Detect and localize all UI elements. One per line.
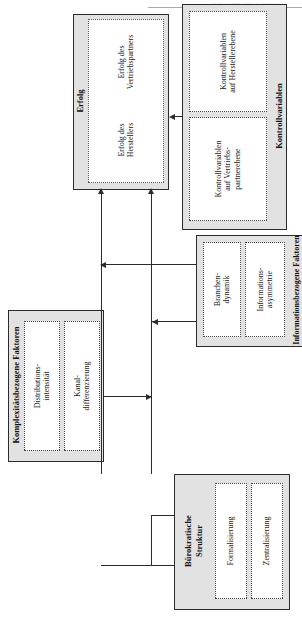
sub-distributionsintensitaet-label: Distributions- intensität: [33, 364, 52, 408]
sub-erfolg-vertriebspartner-label: Erfolg des Vertriebspartners: [117, 35, 136, 90]
group-kontrollvariablen-title: Kontrollvariablen: [273, 3, 286, 229]
link-buerokratie-formalisierung: [101, 565, 174, 566]
group-komplexitaetsbezogene-faktoren: Komplexitätsbezogene Faktoren Distributi…: [8, 310, 104, 462]
link-information-asymmetrie-arrowhead: [100, 262, 106, 268]
group-informationsbezogene-faktoren-title: Informationsbezogene Faktoren: [291, 234, 302, 346]
rail-lower: [151, 190, 152, 474]
sub-informationsasymmetrie: Informations- asymmetrie: [245, 242, 285, 337]
group-informationsbezogene-faktoren: Informationsbezogene Faktoren Branchen- …: [196, 235, 302, 347]
rail-upper-arrowhead: [98, 188, 104, 194]
rail-upper: [101, 190, 102, 474]
rail-lower-arrowhead: [148, 188, 154, 194]
link-buerokratie-zentralisierung: [151, 515, 174, 516]
link-komplexitaet-distribution-arrowhead: [146, 394, 152, 400]
link-information-asymmetrie: [102, 264, 196, 265]
sub-informationsasymmetrie-label: Informations- asymmetrie: [256, 268, 275, 312]
diagram-canvas: Erfolg Erfolg des Herstellers Erfolg des…: [0, 0, 302, 622]
sub-erfolg-vertriebspartner: Erfolg des Vertriebspartners: [94, 25, 158, 99]
sub-kontrollvariablen-vertriebspartnerebene-label: Kontrollvariablen auf Vertriebs- partner…: [214, 141, 243, 198]
group-buerokratische-struktur-title: Bürokratische Struktur: [183, 473, 207, 609]
group-erfolg-title: Erfolg: [74, 13, 86, 189]
sub-formalisierung: Formalisierung: [215, 483, 247, 599]
sub-kanaldifferenzierung: Kanal- differenzierung: [64, 321, 100, 451]
link-buerokratie-bridge: [151, 516, 152, 566]
sub-kontrollvariablen-herstellerebene: Kontrollvariablen auf Herstellerebene: [189, 11, 267, 112]
link-komplexitaet-distribution: [104, 396, 152, 397]
link-information-branchendynamik: [152, 321, 196, 322]
group-kontrollvariablen: Kontrollvariablen Kontrollvariablen auf …: [182, 4, 287, 230]
sub-distributionsintensitaet: Distributions- intensität: [24, 321, 60, 451]
sub-zentralisierung: Zentralisierung: [251, 483, 283, 599]
sub-erfolg-hersteller: Erfolg des Herstellers: [94, 105, 158, 175]
sub-branchendynamik: Branchen- dynamik: [203, 242, 241, 337]
sub-kanaldifferenzierung-label: Kanal- differenzierung: [73, 361, 92, 410]
sub-formalisierung-label: Formalisierung: [226, 517, 236, 566]
group-erfolg: Erfolg Erfolg des Herstellers Erfolg des…: [73, 14, 169, 190]
link-kontrollvariablen-to-erfolg-arrowhead: [169, 114, 175, 120]
sub-zentralisierung-label: Zentralisierung: [262, 517, 272, 566]
group-komplexitaetsbezogene-faktoren-title: Komplexitätsbezogene Faktoren: [10, 309, 22, 461]
sub-kontrollvariablen-herstellerebene-label: Kontrollvariablen auf Herstellerebene: [219, 30, 238, 92]
sub-erfolg-hersteller-label: Erfolg des Herstellers: [117, 123, 136, 158]
sub-branchendynamik-label: Branchen- dynamik: [213, 273, 232, 306]
group-buerokratische-struktur: Bürokratische Struktur Formalisierung Ze…: [174, 474, 290, 610]
sub-kontrollvariablen-vertriebspartnerebene: Kontrollvariablen auf Vertriebs- partner…: [189, 117, 267, 221]
link-information-branchendynamik-arrowhead: [152, 319, 158, 325]
link-kontrollvariablen-to-erfolg: [175, 116, 182, 117]
